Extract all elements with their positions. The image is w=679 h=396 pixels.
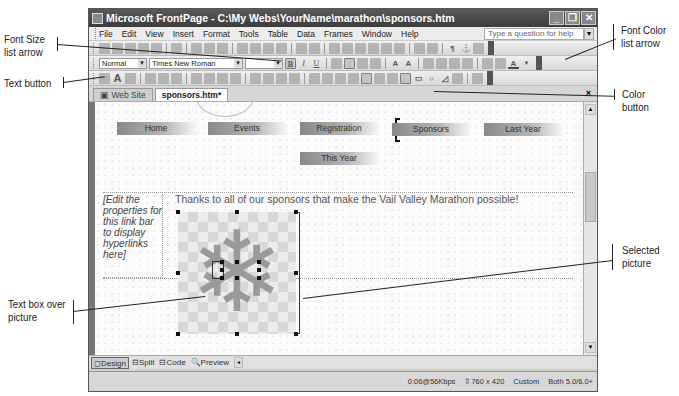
nav-home[interactable]: Home xyxy=(117,122,195,135)
cut-icon[interactable] xyxy=(237,43,248,54)
resize-handle[interactable] xyxy=(294,271,298,275)
menu-file[interactable]: File xyxy=(99,29,113,39)
menu-window[interactable]: Window xyxy=(362,29,392,39)
chevron-down-icon[interactable]: ▼ xyxy=(138,59,146,68)
position-absolutely-icon[interactable] xyxy=(145,73,156,84)
rotate-left-icon[interactable] xyxy=(191,73,202,84)
restore-picture-icon[interactable] xyxy=(472,73,483,84)
flip-vertical-icon[interactable] xyxy=(230,73,241,84)
menu-edit[interactable]: Edit xyxy=(122,29,137,39)
sponsors-thanks-text[interactable]: Thanks to all of our sponsors that make … xyxy=(175,193,518,205)
nav-sponsors[interactable]: Sponsors xyxy=(392,123,470,136)
view-preview-tab[interactable]: 🔍Preview xyxy=(189,357,231,369)
search-icon[interactable] xyxy=(138,43,149,54)
view-code-tab[interactable]: ⊟Code xyxy=(157,357,187,369)
textbox-handle[interactable] xyxy=(235,276,239,280)
view-design-tab[interactable]: ◻Design xyxy=(91,357,129,369)
text-button[interactable]: A xyxy=(112,73,123,84)
textbox-handle[interactable] xyxy=(235,260,239,264)
auto-thumbnail-icon[interactable] xyxy=(125,73,136,84)
style-select[interactable]: Normal▼ xyxy=(99,58,147,69)
flip-horizontal-icon[interactable] xyxy=(217,73,228,84)
close-button[interactable]: ✕ xyxy=(581,11,596,25)
color-button[interactable] xyxy=(361,73,372,84)
web-component-icon[interactable] xyxy=(329,43,340,54)
help-icon[interactable] xyxy=(473,43,484,54)
help-dropdown-arrow[interactable]: ▼ xyxy=(584,28,594,40)
decrease-indent-icon[interactable] xyxy=(449,58,460,69)
undo-icon[interactable] xyxy=(296,43,307,54)
resize-handle[interactable] xyxy=(235,210,239,214)
menubar-grip[interactable] xyxy=(95,28,97,39)
crop-icon[interactable] xyxy=(309,73,320,84)
redo-icon[interactable] xyxy=(309,43,320,54)
bevel-icon[interactable] xyxy=(374,73,385,84)
page-canvas[interactable]: Home Events Registration Sponsors Last Y… xyxy=(95,102,583,355)
send-backward-icon[interactable] xyxy=(171,73,182,84)
minimize-button[interactable]: _ xyxy=(549,11,564,25)
toolbar-options-icon[interactable] xyxy=(536,56,542,70)
paste-icon[interactable] xyxy=(263,43,274,54)
textbox-handle[interactable] xyxy=(257,268,261,272)
view-split-tab[interactable]: ⊟Split xyxy=(130,357,157,369)
size-mode[interactable]: Custom xyxy=(513,377,539,386)
nav-registration[interactable]: Registration xyxy=(300,122,378,135)
highlight-hotspots-icon[interactable] xyxy=(452,73,463,84)
menu-table[interactable]: Table xyxy=(268,29,288,39)
stop-icon[interactable] xyxy=(427,43,438,54)
menu-help[interactable]: Help xyxy=(401,29,418,39)
polygon-hotspot-icon[interactable]: ◿ xyxy=(439,73,450,84)
spelling-icon[interactable] xyxy=(217,43,228,54)
bring-forward-icon[interactable] xyxy=(158,73,169,84)
hyperlink-icon[interactable] xyxy=(394,43,405,54)
toolbar-options-icon[interactable] xyxy=(488,41,494,55)
menu-tools[interactable]: Tools xyxy=(239,29,259,39)
borders-icon[interactable] xyxy=(482,58,493,69)
bullets-icon[interactable] xyxy=(436,58,447,69)
insert-picture-icon[interactable] xyxy=(368,43,379,54)
selected-picture[interactable]: ❄ xyxy=(178,212,296,334)
hscroll-left-icon[interactable]: ◂ xyxy=(234,357,243,368)
insert-picture-icon[interactable] xyxy=(99,73,110,84)
textbox-handle[interactable] xyxy=(220,268,224,272)
insert-table-icon[interactable] xyxy=(342,43,353,54)
increase-font-size-icon[interactable]: A xyxy=(390,58,401,69)
line-style-icon[interactable] xyxy=(322,73,333,84)
design-view-editor[interactable]: Home Events Registration Sponsors Last Y… xyxy=(89,102,597,355)
toolbar-options-icon[interactable] xyxy=(487,71,493,85)
textbox-handle[interactable] xyxy=(220,276,224,280)
resize-handle[interactable] xyxy=(176,210,180,214)
align-left-icon[interactable] xyxy=(331,58,342,69)
rotate-right-icon[interactable] xyxy=(204,73,215,84)
print-icon[interactable] xyxy=(191,43,202,54)
resize-handle[interactable] xyxy=(176,332,180,336)
nav-last-year[interactable]: Last Year xyxy=(484,123,562,136)
toolbar-grip[interactable] xyxy=(93,58,95,69)
chevron-down-icon[interactable]: ▼ xyxy=(234,59,242,68)
set-transparent-color-icon[interactable] xyxy=(348,73,359,84)
anchor-icon[interactable]: ⚓ xyxy=(460,43,471,54)
restore-button[interactable]: ❐ xyxy=(565,11,580,25)
resize-handle[interactable] xyxy=(176,271,180,275)
underline-button[interactable]: U xyxy=(311,58,322,69)
resize-handle[interactable] xyxy=(294,210,298,214)
browser-compatibility[interactable]: Both 5.0/6.0+ xyxy=(548,377,593,386)
format-picture-icon[interactable] xyxy=(335,73,346,84)
vertical-scrollbar[interactable]: ▲ ▼ xyxy=(583,102,597,355)
increase-indent-icon[interactable] xyxy=(462,58,473,69)
pilcrow-icon[interactable]: ¶ xyxy=(447,43,458,54)
scroll-up-icon[interactable]: ▲ xyxy=(585,104,596,115)
tab-sponsors[interactable]: sponsors.htm* xyxy=(155,88,229,101)
align-center-icon[interactable] xyxy=(344,58,355,69)
less-brightness-icon[interactable] xyxy=(289,73,300,84)
highlight-icon[interactable] xyxy=(495,58,506,69)
select-icon[interactable] xyxy=(400,73,411,84)
drawing-icon[interactable] xyxy=(381,43,392,54)
align-right-icon[interactable] xyxy=(357,58,368,69)
link-bar-placeholder[interactable]: [Edit the properties for this link bar t… xyxy=(103,194,163,278)
nav-events[interactable]: Events xyxy=(208,122,286,135)
copy-icon[interactable] xyxy=(250,43,261,54)
scroll-down-icon[interactable]: ▼ xyxy=(585,342,596,353)
bold-button[interactable]: B xyxy=(285,58,296,69)
save-icon[interactable] xyxy=(125,43,136,54)
